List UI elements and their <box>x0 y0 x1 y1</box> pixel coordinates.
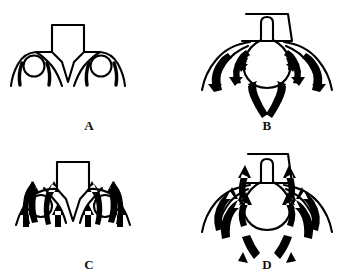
arrow-b-right-outer <box>302 53 326 92</box>
central-bulb-outline-d <box>244 159 291 230</box>
panel-c-label: C <box>0 258 178 271</box>
panel-b: B <box>178 0 356 138</box>
arrow-b-left-outer <box>208 53 232 92</box>
right-circle-a <box>91 56 112 77</box>
left-wing-outline-a <box>11 52 52 86</box>
panel-d: D <box>178 139 356 277</box>
central-bulb-outline-b <box>244 17 291 88</box>
arrow-c-right-vert-2 <box>82 203 94 227</box>
inner-arc-a-3 <box>86 63 89 85</box>
panel-b-label: B <box>178 119 356 132</box>
left-circle-a <box>24 56 45 77</box>
inner-arc-a-2 <box>47 63 50 85</box>
panel-c: C <box>0 139 178 277</box>
panel-a: A <box>0 0 178 138</box>
arrow-c-left-vert-2 <box>52 203 64 227</box>
panel-d-label: D <box>178 258 356 271</box>
inner-arc-a-1 <box>19 63 22 85</box>
figure-root: A <box>0 0 356 277</box>
panel-a-label: A <box>0 119 178 132</box>
inner-arc-a-4 <box>114 63 117 85</box>
